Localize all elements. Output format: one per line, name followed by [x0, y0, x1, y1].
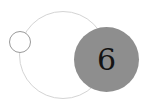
badge-number: 6: [97, 45, 116, 75]
number-badge: 6: [74, 27, 139, 92]
small-outline-circle: [9, 31, 31, 53]
numbered-circle-graphic: 6: [0, 0, 141, 105]
